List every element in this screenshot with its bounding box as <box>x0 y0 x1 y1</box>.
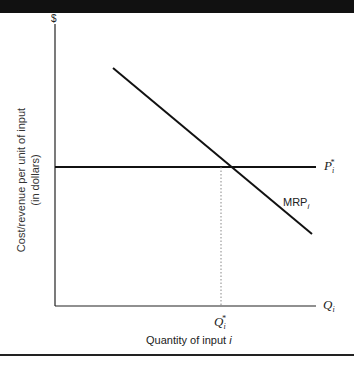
q-axis-end-label: Qi <box>323 298 335 314</box>
mrp-label: MRPi <box>283 197 309 211</box>
y-axis-title-line1: Cost/revenue per unit of input <box>14 95 28 265</box>
y-axis-title-line2: (in dollars) <box>28 95 42 265</box>
price-label: Pi* <box>324 159 334 175</box>
bottom-rule <box>0 354 354 356</box>
dollar-label: $ <box>51 14 57 24</box>
plot-area <box>0 0 354 365</box>
y-axis-title: Cost/revenue per unit of input (in dolla… <box>14 95 42 265</box>
x-axis-title: Quantity of input i <box>146 335 232 346</box>
qstar-label: Qi* <box>214 315 226 331</box>
